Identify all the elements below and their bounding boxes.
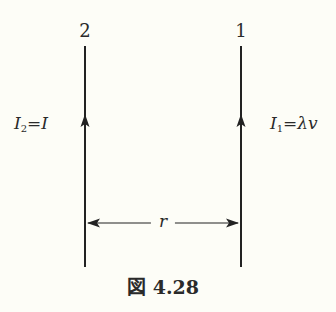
- current-1-symbol: I: [270, 113, 277, 133]
- current-1-label: I1=λv: [270, 113, 318, 134]
- current-1-value: =λv: [283, 113, 318, 133]
- current-2-label: I2=I: [14, 113, 48, 134]
- wire-2-label: 2: [79, 20, 90, 41]
- current-2-value: =I: [27, 113, 48, 133]
- parallel-wires-diagram: [0, 0, 336, 312]
- wire-1-label: 1: [235, 20, 246, 41]
- figure-caption: 図 4.28: [127, 272, 199, 299]
- separation-label: r: [151, 211, 175, 231]
- current-2-symbol: I: [14, 113, 21, 133]
